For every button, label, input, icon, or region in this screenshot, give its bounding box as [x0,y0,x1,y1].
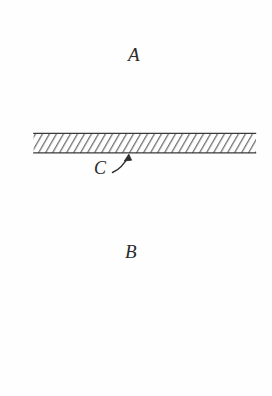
hatch-fill [34,134,256,154]
figure-canvas: A B C [0,0,272,396]
region-label-c: C [94,158,106,179]
region-b-area [34,153,257,371]
region-a-area [34,2,257,133]
region-label-a: A [128,44,140,66]
region-label-b: B [125,241,137,263]
hatched-interlayer [33,133,256,153]
